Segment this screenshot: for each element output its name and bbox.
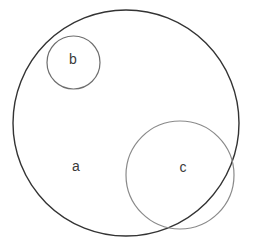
set-label-c: c bbox=[180, 159, 187, 175]
euler-diagram-svg: a b c bbox=[0, 0, 255, 242]
diagram-background bbox=[0, 0, 255, 242]
set-label-a: a bbox=[72, 158, 80, 174]
set-label-b: b bbox=[69, 51, 77, 67]
euler-diagram-canvas: a b c bbox=[0, 0, 255, 242]
